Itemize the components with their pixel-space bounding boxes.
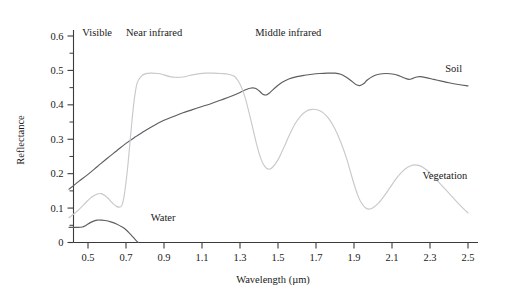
y-tick-label: 0.2 [50,168,63,179]
x-axis-ticks [88,243,468,249]
curve-vegetation [69,73,468,218]
spectral-region-labels: VisibleNear infraredMiddle infrared [82,27,322,38]
y-tick-label: 0.1 [50,203,63,214]
series-label-vegetation: Vegetation [422,170,468,181]
curve-water [69,220,138,242]
spectral-reflectance-chart: 00.10.20.30.40.50.6 0.50.70.91.11.31.51.… [0,0,512,295]
x-axis-title: Wavelength (µm) [236,274,310,286]
y-axis-ticks [68,36,74,243]
x-tick-label: 2.5 [461,252,474,263]
region-label-visible: Visible [82,27,112,38]
x-tick-label: 2.3 [423,252,436,263]
y-tick-label: 0.3 [50,134,63,145]
curve-soil [69,73,468,189]
x-tick-label: 0.9 [157,252,170,263]
x-tick-label: 1.3 [233,252,246,263]
region-label-near-infrared: Near infrared [126,27,183,38]
x-tick-label: 2.1 [385,252,398,263]
y-axis-tick-labels: 00.10.20.30.40.50.6 [50,31,64,249]
x-axis-tick-labels: 0.50.70.91.11.31.51.71.92.12.32.5 [81,252,474,263]
x-tick-label: 1.5 [271,252,284,263]
x-tick-label: 1.1 [195,252,208,263]
x-tick-label: 1.7 [309,252,322,263]
series-labels: SoilVegetationWater [151,63,468,223]
x-tick-label: 0.7 [119,252,132,263]
y-tick-label: 0 [58,237,63,248]
axes-group [74,30,479,243]
y-tick-label: 0.6 [50,31,63,42]
data-curves [69,73,468,242]
x-tick-label: 0.5 [81,252,94,263]
y-tick-label: 0.4 [50,99,64,110]
series-label-soil: Soil [445,63,462,74]
y-axis-title: Reflectance [15,115,26,165]
x-tick-label: 1.9 [347,252,360,263]
region-label-middle-infrared: Middle infrared [255,27,322,38]
y-tick-label: 0.5 [50,65,63,76]
chart-plot-area: 00.10.20.30.40.50.6 0.50.70.91.11.31.51.… [0,0,512,295]
series-label-water: Water [151,212,176,223]
